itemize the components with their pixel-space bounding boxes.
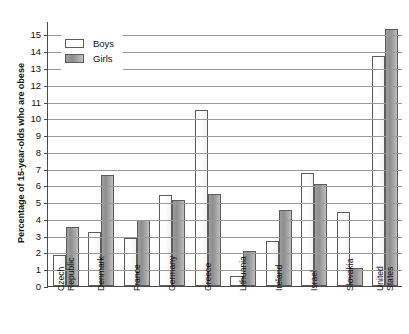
x-tick-label: States	[386, 245, 395, 291]
y-tick-label: 5	[17, 198, 41, 208]
y-tick-label: 12	[17, 81, 41, 91]
x-tick-label: Denmark	[97, 245, 106, 291]
y-tick-mark	[44, 270, 48, 271]
y-tick-mark	[44, 186, 48, 187]
x-tick-label: Czech	[57, 245, 66, 291]
y-tick-label: 1	[17, 265, 41, 275]
y-tick-mark	[44, 220, 48, 221]
gridline	[48, 203, 402, 204]
x-tick-label: Germany	[168, 245, 177, 291]
x-tick-label: Republic	[67, 245, 76, 291]
gridline	[48, 237, 402, 238]
gridline	[48, 220, 402, 221]
y-tick-label: 10	[17, 114, 41, 124]
gridline	[48, 119, 402, 120]
y-tick-mark	[44, 136, 48, 137]
x-axis-labels: CzechRepublicDenmarkFranceGermanyGreeceL…	[47, 289, 402, 334]
x-tick-label: Greece	[204, 245, 213, 291]
gridline	[48, 103, 402, 104]
y-tick-label: 6	[17, 181, 41, 191]
y-tick-label: 14	[17, 47, 41, 57]
x-tick-label: Ireland	[275, 245, 284, 291]
y-tick-mark	[44, 119, 48, 120]
y-tick-mark	[44, 69, 48, 70]
y-tick-mark	[44, 52, 48, 53]
x-tick-label: Lithuania	[239, 245, 248, 291]
gridline	[48, 86, 402, 87]
y-tick-label: 9	[17, 131, 41, 141]
y-tick-label: 8	[17, 148, 41, 158]
y-tick-mark	[44, 287, 48, 288]
y-tick-mark	[44, 237, 48, 238]
y-tick-label: 4	[17, 215, 41, 225]
gridline	[48, 136, 402, 137]
x-tick-label: Israel	[310, 245, 319, 291]
y-tick-label: 0	[17, 282, 41, 292]
chart-legend: Boys Girls	[61, 33, 123, 70]
legend-item-boys: Boys	[65, 36, 114, 51]
gridline	[48, 153, 402, 154]
y-tick-label: 2	[17, 248, 41, 258]
gridline	[48, 186, 402, 187]
y-tick-mark	[44, 86, 48, 87]
legend-swatch-girls	[65, 54, 84, 63]
y-tick-label: 15	[17, 30, 41, 40]
y-tick-mark	[44, 203, 48, 204]
y-tick-label: 7	[17, 165, 41, 175]
y-tick-label: 11	[17, 98, 41, 108]
y-tick-mark	[44, 153, 48, 154]
legend-label-boys: Boys	[93, 38, 114, 49]
y-tick-label: 3	[17, 232, 41, 242]
obesity-bar-chart: Percentage of 15-year-olds who are obese…	[0, 0, 409, 334]
y-tick-label: 13	[17, 64, 41, 74]
legend-item-girls: Girls	[65, 51, 114, 66]
y-tick-mark	[44, 170, 48, 171]
gridline	[48, 170, 402, 171]
x-tick-label: Slovakia	[346, 245, 355, 291]
x-tick-label: France	[133, 245, 142, 291]
legend-label-girls: Girls	[93, 53, 113, 64]
legend-swatch-boys	[65, 39, 84, 48]
y-tick-mark	[44, 253, 48, 254]
y-tick-mark	[44, 35, 48, 36]
y-tick-mark	[44, 103, 48, 104]
